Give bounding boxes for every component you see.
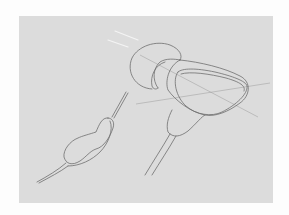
guide-lines — [136, 55, 270, 117]
ear-tip — [130, 43, 181, 89]
cable-left — [145, 134, 170, 175]
remote-body — [64, 118, 114, 164]
remote-wire-top-2 — [114, 93, 128, 118]
arrow-upper — [115, 31, 138, 40]
remote-wire-bottom-2 — [39, 166, 68, 183]
guide-line-horizontal — [136, 83, 270, 104]
image-frame — [0, 0, 289, 215]
arrow-lower — [108, 40, 128, 47]
inline-remote — [37, 92, 128, 183]
remote-wire-top — [112, 92, 126, 117]
earphone-stem — [167, 110, 205, 136]
ear-tip-rim — [152, 62, 165, 89]
earphone-faceplate — [175, 69, 247, 115]
cable-right — [152, 136, 176, 175]
remote-wire-bottom — [37, 163, 66, 182]
earphone-body-outer — [167, 60, 248, 115]
direction-arrows-icon — [108, 31, 138, 47]
earphone-illustration — [0, 0, 289, 215]
